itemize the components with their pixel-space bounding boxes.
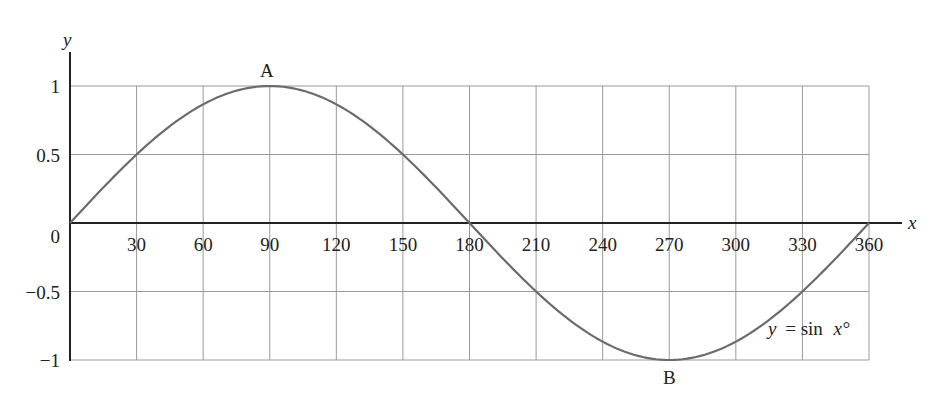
x-tick-label: 30: [127, 234, 146, 255]
point-b-label: B: [663, 367, 676, 388]
x-axis-label: x: [907, 212, 917, 233]
y-tick-label: 0.5: [36, 145, 60, 166]
y-tick-label: 0: [51, 226, 61, 247]
x-tick-label: 360: [855, 234, 884, 255]
y-tick-labels: 10.50−0.5−1: [26, 76, 60, 371]
x-tick-label: 90: [260, 234, 279, 255]
x-tick-label: 270: [655, 234, 684, 255]
x-tick-label: 60: [194, 234, 213, 255]
x-tick-label: 330: [788, 234, 817, 255]
x-tick-label: 210: [522, 234, 551, 255]
point-a-label: A: [260, 60, 274, 81]
y-tick-label: −0.5: [26, 282, 60, 303]
y-tick-label: 1: [51, 76, 61, 97]
x-tick-label: 150: [389, 234, 418, 255]
curve-eq-body: = sin: [785, 318, 823, 339]
curve-eq-y: y: [766, 318, 777, 339]
x-tick-label: 240: [588, 234, 617, 255]
y-tick-label: −1: [40, 350, 60, 371]
x-tick-label: 180: [455, 234, 484, 255]
y-axis-label: y: [61, 29, 72, 50]
sine-chart: 306090120150180210240270300330360 10.50−…: [0, 0, 943, 399]
x-tick-label: 120: [322, 234, 351, 255]
x-tick-label: 300: [722, 234, 751, 255]
curve-equation-label: y = sin x°: [766, 318, 850, 339]
x-tick-labels: 306090120150180210240270300330360: [127, 234, 883, 255]
curve-eq-x: x°: [833, 318, 850, 339]
